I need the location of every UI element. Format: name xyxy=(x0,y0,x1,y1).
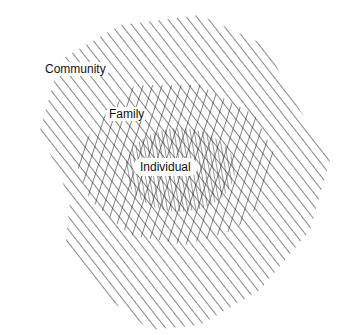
community-label: Community xyxy=(42,62,109,76)
individual-label: Individual xyxy=(133,158,198,176)
family-label: Family xyxy=(106,107,147,121)
